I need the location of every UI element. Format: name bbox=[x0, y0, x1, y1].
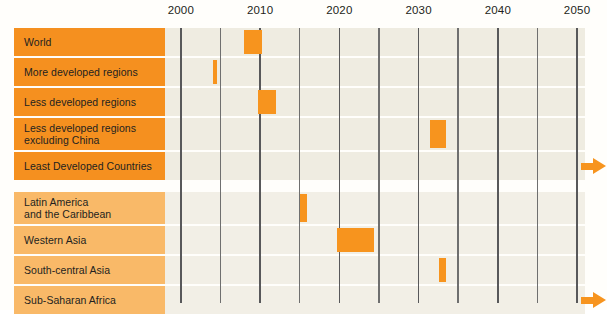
category-label-line: excluding China bbox=[24, 134, 136, 146]
plot-row-band bbox=[165, 88, 585, 116]
category-label-latin-america-and-the-caribbean: Latin Americaand the Caribbean bbox=[14, 192, 165, 224]
category-label-line: South-central Asia bbox=[24, 264, 110, 276]
gridline-2030 bbox=[418, 28, 420, 303]
category-label-less-developed-regions-excluding-china: Less developed regionsexcluding China bbox=[14, 118, 165, 150]
year-tick-label-2040: 2040 bbox=[485, 4, 511, 16]
range-bar bbox=[300, 194, 307, 222]
year-tick-label-2020: 2020 bbox=[326, 4, 352, 16]
range-bar bbox=[258, 90, 276, 114]
range-bar bbox=[213, 60, 218, 84]
category-label-line: More developed regions bbox=[24, 66, 138, 78]
category-label-more-developed-regions: More developed regions bbox=[14, 58, 165, 86]
gridline-2000 bbox=[180, 28, 182, 303]
category-label-line: Less developed regions bbox=[24, 122, 136, 134]
year-tick-label-2030: 2030 bbox=[405, 4, 431, 16]
gridline-2025 bbox=[378, 28, 379, 303]
plot-row-band bbox=[165, 152, 585, 180]
category-label-line: Western Asia bbox=[24, 234, 86, 246]
plot-row-band bbox=[165, 192, 585, 224]
gridline-2035 bbox=[457, 28, 458, 303]
plot-row-band bbox=[165, 118, 585, 150]
gridline-2040 bbox=[497, 28, 499, 303]
category-label-sub-saharan-africa: Sub-Saharan Africa bbox=[14, 286, 165, 314]
open-ended-arrow-icon bbox=[581, 158, 607, 174]
gridline-2005 bbox=[220, 28, 221, 303]
range-bar bbox=[337, 228, 374, 252]
range-bar bbox=[439, 258, 446, 282]
plot-row-band bbox=[165, 58, 585, 86]
category-label-south-central-asia: South-central Asia bbox=[14, 256, 165, 284]
plot-area bbox=[165, 28, 585, 303]
year-tick-label-2010: 2010 bbox=[247, 4, 273, 16]
plot-row-band bbox=[165, 256, 585, 284]
category-label-panel: WorldMore developed regionsLess develope… bbox=[14, 28, 165, 303]
plot-row-band bbox=[165, 28, 585, 56]
category-label-line: Latin America bbox=[24, 196, 111, 208]
time-axis-header: 200020102020203020402050 bbox=[0, 0, 607, 28]
category-label-line: and the Caribbean bbox=[24, 208, 111, 220]
range-bar bbox=[244, 30, 261, 54]
category-label-western-asia: Western Asia bbox=[14, 226, 165, 254]
category-label-least-developed-countries: Least Developed Countries bbox=[14, 152, 165, 180]
range-bar bbox=[430, 120, 446, 148]
year-tick-label-2050: 2050 bbox=[564, 4, 590, 16]
gridline-2015 bbox=[299, 28, 300, 303]
category-label-line: Least Developed Countries bbox=[24, 160, 152, 172]
gridline-2010 bbox=[259, 28, 261, 303]
year-tick-label-2000: 2000 bbox=[168, 4, 194, 16]
open-ended-arrow-icon bbox=[581, 292, 607, 308]
gridline-2050 bbox=[576, 28, 578, 303]
gridline-2045 bbox=[537, 28, 538, 303]
category-label-line: Less developed regions bbox=[24, 96, 136, 108]
category-label-line: Sub-Saharan Africa bbox=[24, 294, 116, 306]
category-label-line: World bbox=[24, 36, 51, 48]
plot-row-band bbox=[165, 286, 585, 314]
category-label-world: World bbox=[14, 28, 165, 56]
category-label-less-developed-regions: Less developed regions bbox=[14, 88, 165, 116]
plot-row-band bbox=[165, 226, 585, 254]
gridline-2020 bbox=[339, 28, 341, 303]
